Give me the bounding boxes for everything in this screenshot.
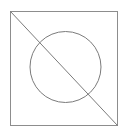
geometric-figure [0, 0, 128, 134]
